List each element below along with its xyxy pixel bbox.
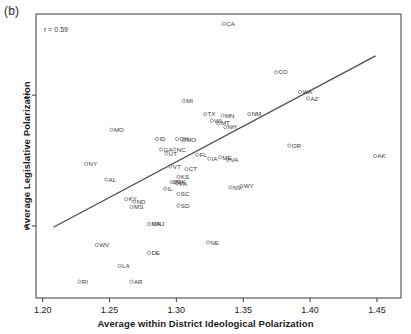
state-label: NY (89, 160, 98, 167)
y-axis-title: Average Legislative Polarization (21, 56, 32, 256)
state-label: MN (225, 112, 235, 119)
regression-line (53, 56, 375, 227)
state-label: IL (167, 185, 173, 192)
state-label: DE (151, 249, 160, 256)
data-point (159, 148, 162, 151)
data-point (373, 154, 376, 157)
state-label: AL (109, 176, 117, 183)
data-point (147, 251, 150, 254)
state-label: VT (173, 163, 181, 170)
state-label: WY (244, 182, 254, 189)
state-label: NE (210, 239, 219, 246)
data-point (206, 241, 209, 244)
state-label: OR (292, 142, 302, 149)
scatter-plot-canvas: 1.201.251.301.351.401.45 12 CACOWAAZMITX… (0, 0, 411, 334)
data-point (298, 90, 301, 93)
x-tick-label: 1.40 (301, 305, 319, 315)
data-point (208, 157, 211, 160)
data-point (130, 280, 133, 283)
state-label: FL (200, 151, 208, 158)
state-label: CO (278, 68, 287, 75)
state-label: PA (179, 180, 188, 187)
data-point (110, 128, 113, 131)
state-label: MI (186, 97, 193, 104)
data-point (218, 156, 221, 159)
data-point (182, 99, 185, 102)
data-point (130, 205, 133, 208)
data-point (85, 162, 88, 165)
x-tick-label: 1.35 (234, 305, 252, 315)
state-label: MO (114, 126, 124, 133)
data-point (163, 187, 166, 190)
x-tick-label: 1.45 (368, 305, 386, 315)
x-tick-label: 1.25 (101, 305, 119, 315)
x-tick-label: 1.30 (168, 305, 186, 315)
state-label: AK (377, 152, 386, 159)
correlation-annotation: r = 0.59 (44, 26, 68, 33)
state-label: SD (181, 202, 190, 209)
state-label: AZ (310, 95, 318, 102)
state-label: MO (186, 136, 196, 143)
x-axis-ticks: 1.201.251.301.351.401.45 (34, 298, 386, 315)
state-label: IA (212, 155, 219, 162)
x-tick-label: 1.20 (34, 305, 52, 315)
data-point (177, 192, 180, 195)
state-label: WV (99, 241, 110, 248)
state-label: RI (82, 278, 88, 285)
data-point (147, 222, 150, 225)
state-label: NV (233, 184, 242, 191)
x-axis-title: Average within District Ideological Pola… (0, 318, 411, 329)
state-label-group: CACOWAAZMITXMNNMWIMTNHMOIDOHMOORGANCUTFL… (82, 20, 387, 285)
data-point (274, 71, 277, 74)
figure-panel-b: (b) Average Legislative Polarization Ave… (0, 0, 411, 334)
data-point (185, 167, 188, 170)
state-label: UT (169, 150, 177, 157)
state-label: LA (122, 262, 130, 269)
state-label: NJ (157, 220, 165, 227)
state-label: CA (226, 20, 235, 27)
state-label: NM (252, 110, 262, 117)
data-point (105, 178, 108, 181)
data-point (177, 204, 180, 207)
data-point (155, 137, 158, 140)
state-label: AR (134, 278, 143, 285)
data-point (248, 113, 251, 116)
data-point (288, 144, 291, 147)
state-label: MS (134, 203, 143, 210)
data-point (125, 198, 128, 201)
data-point (175, 137, 178, 140)
state-label: VA (230, 156, 239, 163)
state-label: SC (181, 190, 190, 197)
data-point (229, 186, 232, 189)
panel-label: (b) (4, 4, 19, 18)
state-label: ID (159, 135, 166, 142)
data-point (196, 153, 199, 156)
data-point (204, 113, 207, 116)
state-label: CT (189, 165, 197, 172)
state-label: NH (228, 123, 237, 130)
data-point (118, 264, 121, 267)
state-label: NC (177, 146, 186, 153)
data-point (78, 280, 81, 283)
data-point (95, 243, 98, 246)
data-point (306, 97, 309, 100)
data-point (222, 22, 225, 25)
data-point (210, 119, 213, 122)
